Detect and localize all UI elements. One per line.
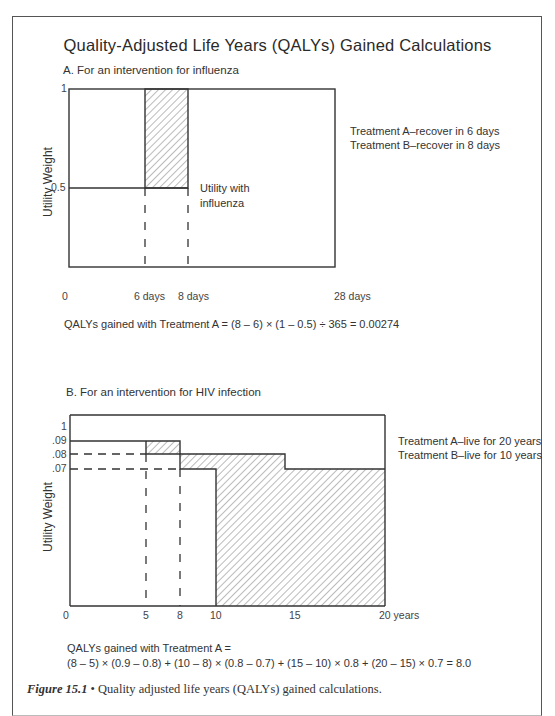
- panel-b-legend: Treatment A–live for 20 years Treatment …: [398, 434, 542, 462]
- panel-b-subtitle: B. For an intervention for HIV infection: [66, 386, 261, 398]
- caption-text: Quality adjusted life years (QALYs) gain…: [98, 682, 382, 696]
- panel-b-y-axis-label: Utility Weight: [41, 477, 55, 557]
- panel-b-ytick-0: 0: [63, 609, 69, 621]
- panel-b-ytick-09: .09: [52, 434, 67, 446]
- panel-b-xtick-20: 20 years: [379, 609, 419, 621]
- panel-b-ytick-08: .08: [52, 448, 67, 460]
- panel-a-xtick-6: 6 days: [134, 290, 165, 302]
- panel-b-xtick-5: 5: [143, 609, 149, 621]
- panel-a-legend: Treatment A–recover in 6 days Treatment …: [350, 124, 500, 152]
- panel-a-ytick-0-5: 0.5: [51, 181, 66, 193]
- panel-a-shaded-region: [145, 89, 188, 188]
- panel-b-xtick-10: 10: [210, 609, 222, 621]
- figure-label: Figure 15.1: [27, 682, 87, 696]
- panel-a-xtick-28: 28 days: [334, 290, 371, 302]
- panel-a-formula: QALYs gained with Treatment A = (8 – 6) …: [64, 318, 399, 330]
- legend-treatment-a: Treatment A–recover in 6 days: [350, 124, 500, 138]
- panel-a-xtick-8: 8 days: [178, 290, 209, 302]
- panel-a-annotation: Utility with influenza: [200, 181, 250, 211]
- panel-b-ytick-07: .07: [52, 462, 67, 474]
- caption-bullet: •: [91, 682, 95, 696]
- panel-a-ytick-0: 0: [62, 290, 68, 302]
- panel-b-xtick-15: 15: [289, 609, 301, 621]
- panel-b-plot: [70, 415, 385, 606]
- panel-b-formula: QALYs gained with Treatment A = (8 – 5) …: [67, 641, 471, 671]
- panel-b-shaded-region: [180, 454, 385, 606]
- legend-treatment-b: Treatment B–live for 10 years: [398, 448, 542, 462]
- panel-a-plot: [69, 89, 335, 267]
- panel-b-ytick-1: 1: [61, 420, 67, 432]
- legend-treatment-b: Treatment B–recover in 8 days: [350, 138, 500, 152]
- legend-treatment-a: Treatment A–live for 20 years: [398, 434, 542, 448]
- panel-a-ytick-1: 1: [61, 82, 67, 94]
- figure-caption: Figure 15.1 • Quality adjusted life year…: [27, 682, 382, 697]
- panel-b-xtick-8: 8: [177, 609, 183, 621]
